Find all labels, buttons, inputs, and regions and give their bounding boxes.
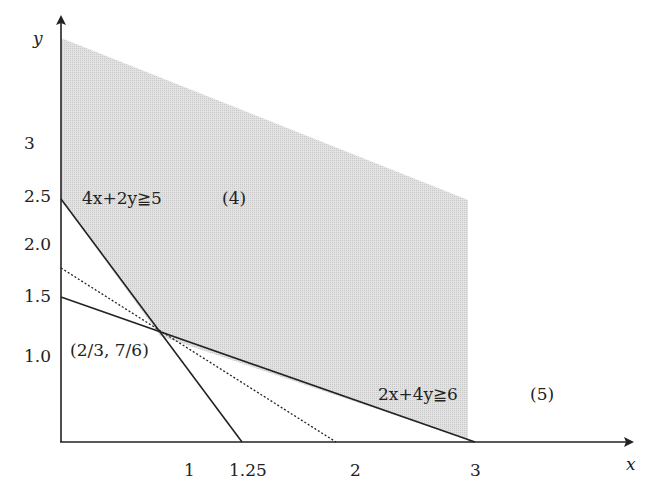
y-axis-label: y bbox=[33, 30, 43, 47]
y-tick-3: 3 bbox=[24, 135, 35, 152]
intersection-label: (2/3, 7/6) bbox=[70, 342, 149, 359]
constraint-5-number: (5) bbox=[530, 386, 554, 403]
constraint-5-label: 2x+4y≧6 bbox=[378, 386, 458, 403]
x-tick-1: 1 bbox=[184, 462, 195, 479]
constraint-4-number: (4) bbox=[222, 190, 246, 207]
feasible-region bbox=[61, 38, 475, 442]
x-tick-2: 2 bbox=[350, 462, 361, 479]
x-axis-label: x bbox=[626, 456, 636, 473]
chart-canvas bbox=[0, 0, 661, 504]
y-tick-2-5: 2.5 bbox=[24, 188, 51, 205]
x-tick-1-25: 1.25 bbox=[229, 462, 267, 479]
constraint-4-label: 4x+2y≧5 bbox=[82, 190, 162, 207]
y-tick-2-0: 2.0 bbox=[24, 236, 51, 253]
y-tick-1-0: 1.0 bbox=[24, 348, 51, 365]
y-tick-1-5: 1.5 bbox=[24, 288, 51, 305]
x-tick-3: 3 bbox=[470, 462, 481, 479]
